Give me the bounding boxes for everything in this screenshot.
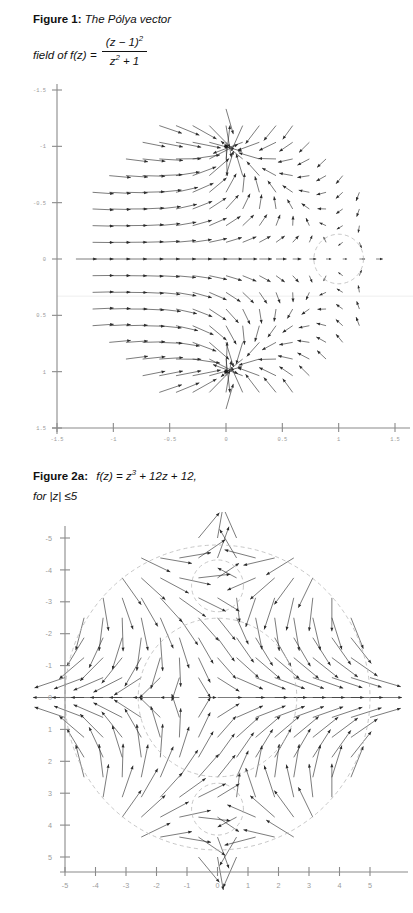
- field-arrow: [243, 830, 274, 837]
- field-arrow-head: [144, 191, 148, 194]
- field-arrow-head: [273, 318, 276, 322]
- field-arrow-head: [260, 194, 263, 198]
- field-arrow: [313, 618, 321, 651]
- field-arrow-head: [130, 625, 133, 629]
- field-arrow: [122, 598, 133, 630]
- field-arrow-head: [202, 613, 206, 616]
- field-arrow: [313, 707, 343, 718]
- figure-1-caption-line1-text: The Pólya vector: [85, 13, 171, 25]
- field-arrow-head: [245, 623, 248, 627]
- field-arrow: [286, 765, 293, 798]
- y-tick-label: 0.5: [36, 313, 46, 319]
- field-arrow: [275, 716, 300, 737]
- field-arrow: [256, 618, 262, 650]
- field-arrow-head: [223, 277, 227, 280]
- field-arrow: [198, 712, 210, 737]
- x-tick-label: 2: [277, 881, 281, 890]
- x-tick-label: -1.5: [51, 437, 64, 443]
- field-arrow: [332, 638, 351, 665]
- field-arrow-head: [281, 236, 285, 239]
- figure-2a-label: Figure 2a: [33, 470, 84, 482]
- field-arrow: [294, 717, 319, 738]
- field-arrow-head: [254, 257, 258, 260]
- field-arrow-head: [207, 694, 210, 698]
- field-arrow: [122, 766, 133, 798]
- field-arrow: [264, 766, 274, 798]
- field-arrow-head: [162, 159, 166, 162]
- field-arrow-head: [235, 828, 239, 831]
- field-arrow: [227, 578, 255, 590]
- sink-point: [224, 370, 228, 374]
- field-arrow: [139, 678, 160, 698]
- field-arrow: [122, 744, 123, 777]
- field-arrow-head: [208, 314, 212, 317]
- field-arrow-head: [358, 685, 362, 688]
- field-arrow-head: [237, 216, 241, 219]
- field-arrow-head: [207, 697, 210, 701]
- field-arrow: [141, 578, 165, 600]
- dashed-circle: [314, 234, 364, 284]
- field-arrow: [176, 383, 199, 393]
- figure-1-label: Figure 1: [33, 13, 78, 25]
- field-arrow: [237, 658, 259, 678]
- field-arrow-head: [231, 658, 234, 662]
- figure-2a-formula-tail: + 12z + 12,: [136, 470, 197, 482]
- field-arrow-head: [329, 258, 331, 260]
- field-arrow-head: [283, 136, 286, 140]
- field-arrow-head: [258, 157, 262, 160]
- field-arrow: [246, 768, 256, 797]
- field-arrow: [198, 574, 230, 578]
- field-arrow-head: [127, 208, 131, 211]
- field-arrow-head: [213, 364, 217, 367]
- field-arrow-head: [236, 608, 240, 611]
- field-arrow-head: [274, 791, 277, 795]
- field-arrow-head: [212, 348, 216, 351]
- field-arrow-head: [356, 197, 359, 201]
- figure-1-caption-text: Figure 1: The Pólya vector field of f(z)…: [33, 11, 171, 70]
- field-arrow-head: [354, 718, 358, 721]
- field-arrow-head: [187, 664, 190, 668]
- field-arrow: [160, 773, 182, 797]
- field-arrow: [198, 784, 225, 798]
- field-arrow-head: [178, 131, 182, 134]
- field-arrow: [198, 540, 225, 558]
- field-arrow: [141, 598, 158, 627]
- field-arrow: [112, 638, 122, 670]
- field-arrow-head: [299, 189, 303, 192]
- field-arrow: [160, 802, 188, 817]
- figure-1-formula-numerator: (z − 1)2: [102, 34, 147, 53]
- field-arrow: [256, 729, 273, 757]
- field-arrow: [99, 744, 103, 777]
- field-arrow-head: [207, 840, 211, 843]
- field-arrow-head: [90, 696, 94, 699]
- field-arrow: [198, 754, 218, 777]
- x-tick-label: 4: [338, 881, 342, 890]
- field-arrow: [275, 706, 305, 717]
- field-arrow: [99, 618, 103, 651]
- field-arrow: [179, 727, 189, 758]
- field-arrow: [102, 712, 122, 738]
- field-arrow-head: [251, 659, 254, 663]
- field-arrow-head: [195, 132, 199, 135]
- field-arrow-head: [223, 238, 227, 241]
- field-arrow-head: [354, 674, 358, 677]
- field-arrow-head: [307, 729, 310, 733]
- field-arrow-head: [279, 343, 283, 346]
- field-arrow-head: [207, 810, 211, 813]
- field-arrow: [256, 638, 273, 666]
- field-arrow: [141, 795, 165, 817]
- field-arrow-head: [277, 647, 280, 651]
- field-arrow-head: [308, 764, 311, 768]
- field-arrow: [80, 658, 103, 681]
- field-arrow: [198, 638, 213, 664]
- x-tick-label: 0.5: [277, 437, 287, 443]
- field-arrow-head: [279, 367, 283, 370]
- field-arrow: [141, 745, 148, 778]
- field-arrow-head: [161, 724, 164, 728]
- field-arrow-head: [297, 340, 301, 343]
- field-arrow-head: [397, 684, 401, 687]
- field-arrow-head: [252, 237, 256, 240]
- field-arrow: [256, 716, 281, 737]
- field-arrow-head: [301, 686, 305, 689]
- field-arrow-head: [283, 329, 287, 332]
